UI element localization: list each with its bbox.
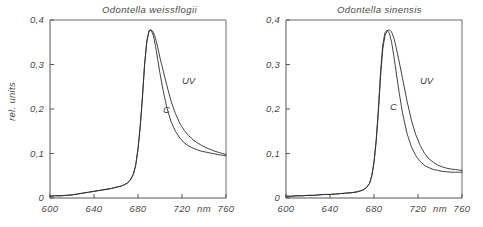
spectrum-curve-uv xyxy=(50,30,226,196)
panel-odontella-sinensis: Odontella sinensis 00,10,20,30,460064068… xyxy=(240,0,483,227)
plot-area-right: 00,10,20,30,4600640680720760nmUVC xyxy=(240,0,483,227)
y-tick-label: 0,3 xyxy=(266,59,281,70)
y-tick-label: 0,1 xyxy=(30,148,44,159)
x-tick-label: 600 xyxy=(42,203,59,214)
curve-annotation-c: C xyxy=(390,101,397,112)
y-tick-label: 0 xyxy=(274,192,280,203)
curve-annotation-c: C xyxy=(163,104,170,115)
figure-container: Odontella weissflogii rel. units 00,10,2… xyxy=(0,0,483,227)
y-tick-label: 0,4 xyxy=(266,14,280,25)
plot-area-left: 00,10,20,30,4600640680720760nmUVC xyxy=(0,0,243,227)
y-tick-label: 0,3 xyxy=(30,59,45,70)
y-tick-label: 0,2 xyxy=(30,103,45,114)
spectrum-curve-uv xyxy=(286,30,462,196)
x-axis-unit-label: nm xyxy=(197,203,211,214)
x-axis-unit-label: nm xyxy=(433,203,447,214)
x-tick-label: 640 xyxy=(322,203,339,214)
spectrum-curve-c xyxy=(50,30,226,196)
panel-odontella-weissflogii: Odontella weissflogii rel. units 00,10,2… xyxy=(0,0,243,227)
spectrum-curve-c xyxy=(286,30,462,196)
x-tick-label: 720 xyxy=(410,203,427,214)
x-tick-label: 760 xyxy=(454,203,471,214)
x-tick-label: 720 xyxy=(174,203,191,214)
y-tick-label: 0,1 xyxy=(266,148,280,159)
x-tick-label: 600 xyxy=(278,203,295,214)
x-tick-label: 680 xyxy=(130,203,147,214)
y-tick-label: 0,4 xyxy=(30,14,44,25)
y-tick-label: 0,2 xyxy=(266,103,281,114)
x-tick-label: 760 xyxy=(218,203,235,214)
curve-annotation-uv: UV xyxy=(420,75,435,86)
x-tick-label: 680 xyxy=(366,203,383,214)
curve-annotation-uv: UV xyxy=(182,75,197,86)
x-tick-label: 640 xyxy=(86,203,103,214)
y-tick-label: 0 xyxy=(38,192,44,203)
